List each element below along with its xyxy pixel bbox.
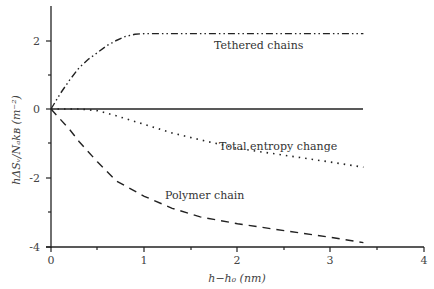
x-tick-3: 3 xyxy=(327,254,334,267)
x-tick-1: 1 xyxy=(141,254,148,267)
x-ticks xyxy=(51,247,424,252)
series-total-entropy-change xyxy=(51,109,363,167)
y-axis-label: hΔSᵥ/Nₐkʙ (m⁻²) xyxy=(10,95,23,185)
annotation-total-entropy: Total entropy change xyxy=(219,140,337,153)
series-polymer-chain xyxy=(51,109,363,243)
x-tick-2: 2 xyxy=(234,254,241,267)
x-tick-0: 0 xyxy=(48,254,55,267)
y-tick-neg2: -2 xyxy=(29,172,40,185)
series-layer xyxy=(51,34,363,243)
chart-canvas: 2 0 -2 -4 0 1 2 3 4 h−h₀ (nm) hΔSᵥ/Nₐkʙ … xyxy=(0,0,434,289)
x-axis-label: h−h₀ (nm) xyxy=(208,272,265,285)
annotation-polymer-chain: Polymer chain xyxy=(165,189,244,202)
annotation-tethered-chains: Tethered chains xyxy=(214,39,304,52)
y-ticks xyxy=(46,41,51,247)
y-tick-neg4: -4 xyxy=(29,241,40,254)
y-tick-2: 2 xyxy=(33,35,40,48)
y-tick-0: 0 xyxy=(33,103,40,116)
series-tethered-chains xyxy=(51,34,363,109)
x-tick-4: 4 xyxy=(421,254,428,267)
